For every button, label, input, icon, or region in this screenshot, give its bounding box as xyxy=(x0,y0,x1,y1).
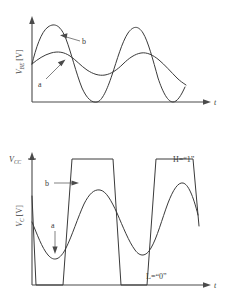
bottom-curve-a-leader-arrow xyxy=(52,247,57,255)
top-y-axis-arrowhead xyxy=(29,16,35,24)
bottom-y-axis-label: VC [V] xyxy=(15,205,25,227)
bottom-low-level-label: L=“0” xyxy=(146,272,167,281)
bottom-x-axis-label: t xyxy=(214,281,217,290)
top-curve-a xyxy=(32,52,186,85)
top-y-axis-label: VBE [V] xyxy=(15,49,25,74)
bottom-curve-b-label: b xyxy=(45,179,49,188)
top-x-axis-label: t xyxy=(214,98,217,107)
top-curve-a-leader-arrow xyxy=(58,60,66,67)
bottom-curve-a-label: a xyxy=(51,221,55,230)
top-curve-b-label: b xyxy=(82,37,86,46)
top-x-axis-arrowhead xyxy=(203,99,211,105)
waveform-figure: b a VBE [V] t xyxy=(0,0,230,300)
bottom-y-axis-label-group: VC [V] xyxy=(15,205,25,227)
bottom-curve-b xyxy=(32,159,199,285)
bottom-vcc-label: VCC xyxy=(9,155,22,165)
bottom-curve-b-leader-arrow xyxy=(72,180,80,185)
top-y-axis-label-group: VBE [V] xyxy=(15,49,25,74)
bottom-high-level-label: H=“1” xyxy=(173,155,195,164)
figure-svg: b a VBE [V] t xyxy=(0,0,230,300)
top-curve-b xyxy=(32,25,185,102)
top-plot: b a VBE [V] t xyxy=(15,16,217,107)
bottom-x-axis-arrowhead xyxy=(203,282,211,288)
top-curve-a-label: a xyxy=(38,80,42,89)
bottom-plot: b a VCC VC [V] H=“1” L=“0” t xyxy=(9,152,217,290)
